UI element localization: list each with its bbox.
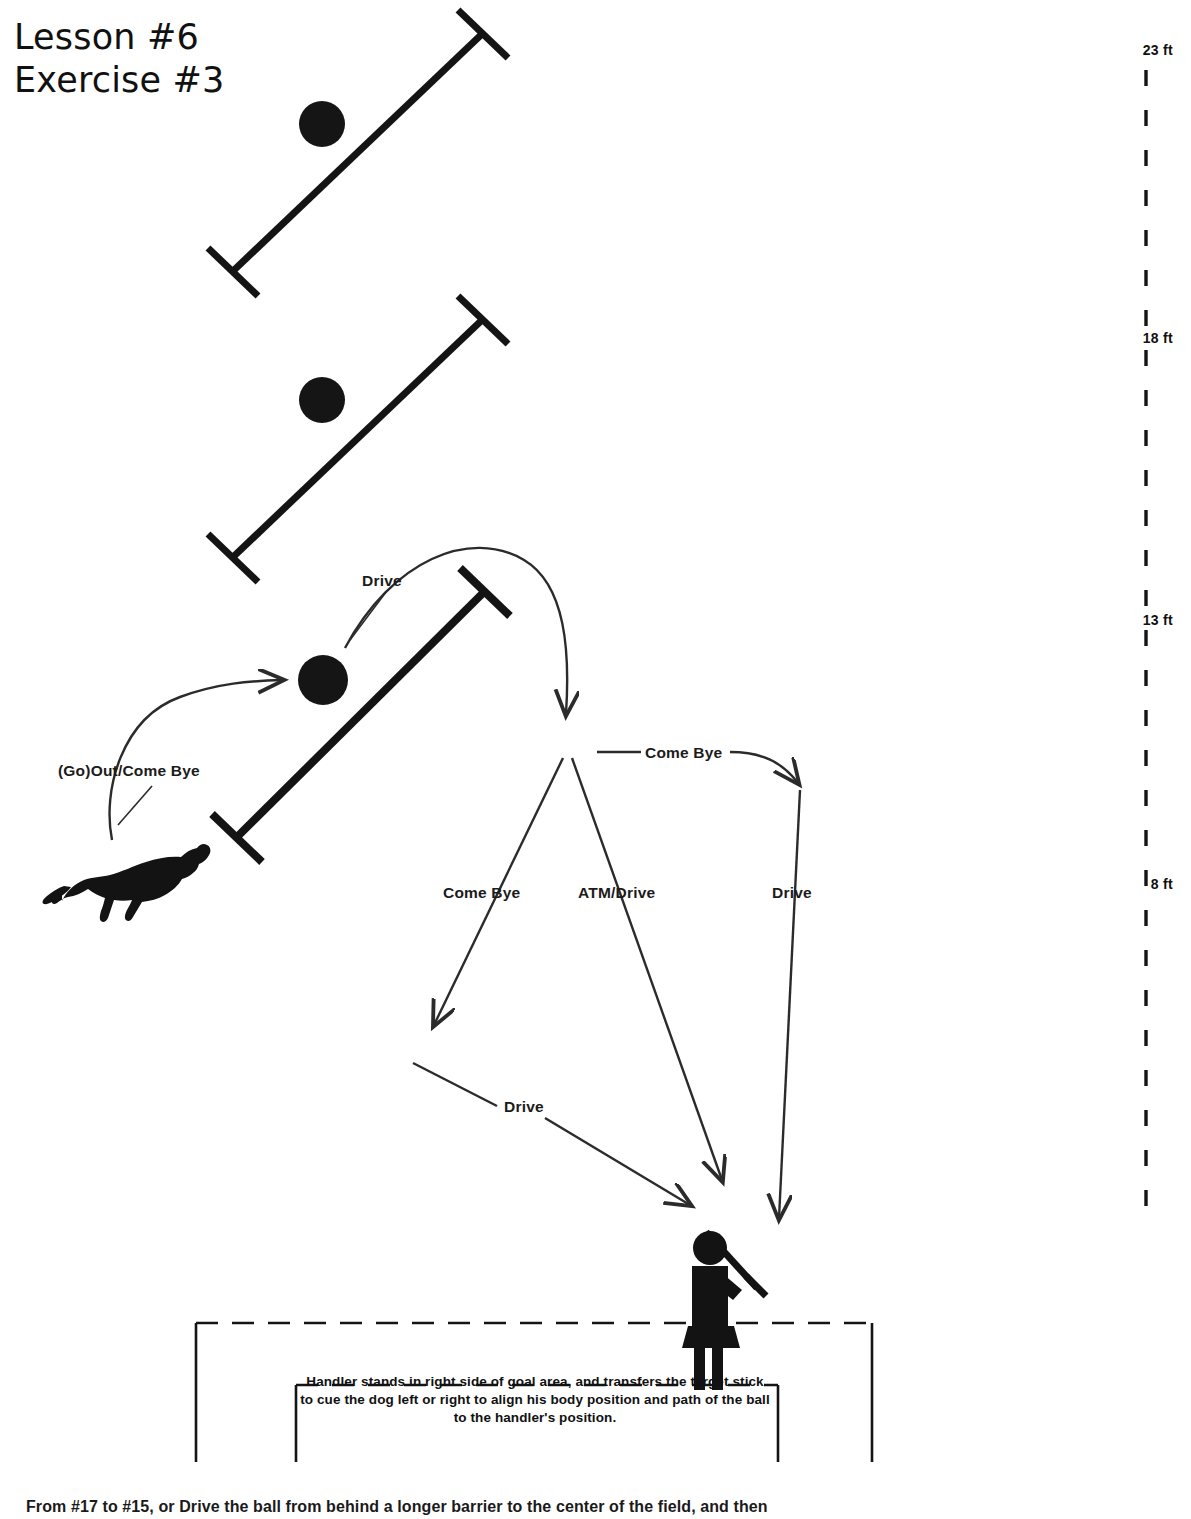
label-drive-right: Drive	[772, 884, 812, 902]
label-atm-drive: ATM/Drive	[578, 884, 655, 902]
scale-label-13ft: 13 ft	[1143, 612, 1173, 628]
label-come-bye-upper: Come Bye	[645, 744, 722, 762]
scale-label-23ft: 23 ft	[1143, 42, 1173, 58]
label-come-bye-left: Come Bye	[443, 884, 520, 902]
scale-label-18ft: 18 ft	[1143, 330, 1173, 346]
goal-area-caption: Handler stands in right side of goal are…	[300, 1373, 770, 1426]
exercise-diagram: Lesson #6 Exercise #3	[0, 0, 1191, 1519]
label-drive-top: Drive	[362, 572, 402, 590]
label-drive-lower-left: Drive	[504, 1098, 544, 1116]
scale-label-8ft: 8 ft	[1151, 876, 1173, 892]
label-go-out-come-bye: (Go)Out/Come Bye	[58, 762, 200, 780]
distance-scale	[0, 0, 1191, 1519]
bottom-note: From #17 to #15, or Drive the ball from …	[26, 1498, 1176, 1519]
